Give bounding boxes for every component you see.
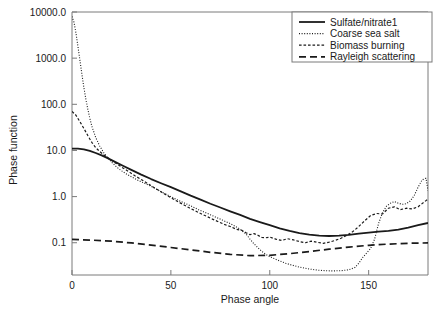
series-line (72, 111, 428, 243)
series-line (72, 239, 428, 255)
y-tick-label: 10.0 (47, 145, 67, 156)
legend-label: Biomass burning (330, 40, 404, 51)
x-tick-label: 150 (360, 280, 377, 291)
x-tick-label: 0 (69, 280, 75, 291)
phase-function-chart-figure: 0.11.010.0100.01000.010000.0 050100150 S… (0, 0, 445, 317)
legend-label: Sulfate/nitrate1 (330, 17, 398, 28)
series-line (72, 149, 428, 236)
x-tick-label: 50 (165, 280, 177, 291)
chart-legend: Sulfate/nitrate1Coarse sea saltBiomass b… (292, 12, 432, 62)
x-tick-label: 100 (261, 280, 278, 291)
y-axis-title: Phase function (7, 115, 19, 185)
y-tick-label: 0.1 (52, 237, 66, 248)
legend-label: Rayleigh scattering (330, 51, 415, 62)
y-tick-label: 1000.0 (35, 53, 66, 64)
x-axis-ticks: 050100150 (69, 270, 377, 291)
legend-label: Coarse sea salt (330, 28, 400, 39)
y-tick-label: 10000.0 (30, 7, 67, 18)
y-tick-label: 100.0 (41, 99, 66, 110)
x-axis-title: Phase angle (221, 293, 280, 305)
chart-svg: 0.11.010.0100.01000.010000.0 050100150 S… (0, 0, 445, 317)
y-tick-label: 1.0 (52, 191, 66, 202)
y-axis-ticks: 0.11.010.0100.01000.010000.0 (30, 7, 77, 249)
